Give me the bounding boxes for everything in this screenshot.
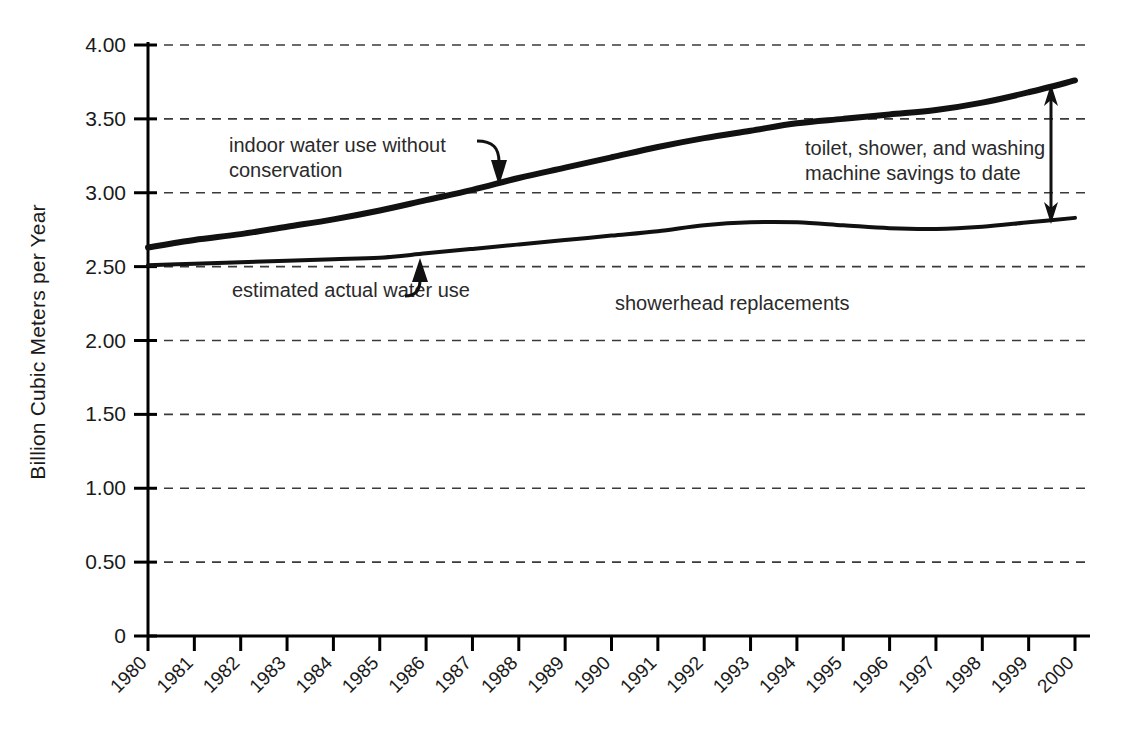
x-tick-label: 1984 bbox=[291, 652, 336, 697]
y-tick-label: 2.50 bbox=[85, 255, 126, 278]
x-tick-label: 1982 bbox=[199, 652, 244, 697]
x-tick-marks-group bbox=[148, 636, 1075, 651]
y-tick-label: 4.00 bbox=[85, 33, 126, 56]
x-tick-label: 1990 bbox=[570, 652, 615, 697]
chart-container: Billion Cubic Meters per Year 4.003.503.… bbox=[0, 0, 1123, 729]
x-tick-label: 1994 bbox=[755, 652, 800, 697]
y-tick-marks-group bbox=[134, 45, 157, 636]
double-vertical-arrow-icon bbox=[1044, 84, 1058, 224]
x-tick-label: 1991 bbox=[616, 652, 661, 697]
x-tick-label: 1998 bbox=[940, 652, 985, 697]
x-tick-label: 1989 bbox=[523, 652, 568, 697]
x-tick-label: 1986 bbox=[384, 652, 429, 697]
annotation-savings: toilet, shower, and washing machine savi… bbox=[805, 84, 1058, 224]
x-tick-labels-group: 1980198119821983198419851986198719881989… bbox=[106, 652, 1078, 697]
annotation-showerhead-line-1: showerhead replacements bbox=[615, 292, 850, 314]
x-tick-label: 1981 bbox=[152, 652, 197, 697]
y-tick-label: 0.50 bbox=[85, 550, 126, 573]
annotation-estimated-line-1: estimated actual water use bbox=[232, 279, 470, 301]
x-tick-label: 1988 bbox=[477, 652, 522, 697]
annotation-indoor-line-2: conservation bbox=[229, 159, 342, 181]
line-chart: 4.003.503.002.502.001.501.000.500 198019… bbox=[0, 0, 1123, 729]
y-tick-label: 1.50 bbox=[85, 402, 126, 425]
annotation-estimated-actual: estimated actual water use bbox=[232, 258, 470, 301]
annotation-savings-line-2: machine savings to date bbox=[805, 162, 1021, 184]
y-tick-label: 2.00 bbox=[85, 329, 126, 352]
y-tick-label: 3.00 bbox=[85, 181, 126, 204]
x-tick-label: 1995 bbox=[801, 652, 846, 697]
x-tick-label: 1985 bbox=[338, 652, 383, 697]
y-tick-label: 1.00 bbox=[85, 476, 126, 499]
x-tick-label: 1996 bbox=[848, 652, 893, 697]
annotation-indoor-line-1: indoor water use without bbox=[229, 134, 446, 156]
x-tick-label: 1999 bbox=[987, 652, 1032, 697]
x-tick-label: 1993 bbox=[709, 652, 754, 697]
annotation-savings-line-1: toilet, shower, and washing bbox=[805, 137, 1045, 159]
annotation-indoor-water-use: indoor water use without conservation bbox=[229, 134, 507, 186]
y-tick-label: 3.50 bbox=[85, 107, 126, 130]
x-tick-label: 1980 bbox=[106, 652, 151, 697]
annotation-showerhead: showerhead replacements bbox=[615, 292, 850, 314]
y-tick-label: 0 bbox=[114, 624, 126, 647]
y-tick-labels-group: 4.003.503.002.502.001.501.000.500 bbox=[85, 33, 126, 647]
x-tick-label: 1997 bbox=[894, 652, 939, 697]
x-tick-label: 1992 bbox=[662, 652, 707, 697]
x-tick-label: 1987 bbox=[431, 652, 476, 697]
x-tick-label: 1983 bbox=[245, 652, 290, 697]
x-tick-label: 2000 bbox=[1033, 652, 1078, 697]
